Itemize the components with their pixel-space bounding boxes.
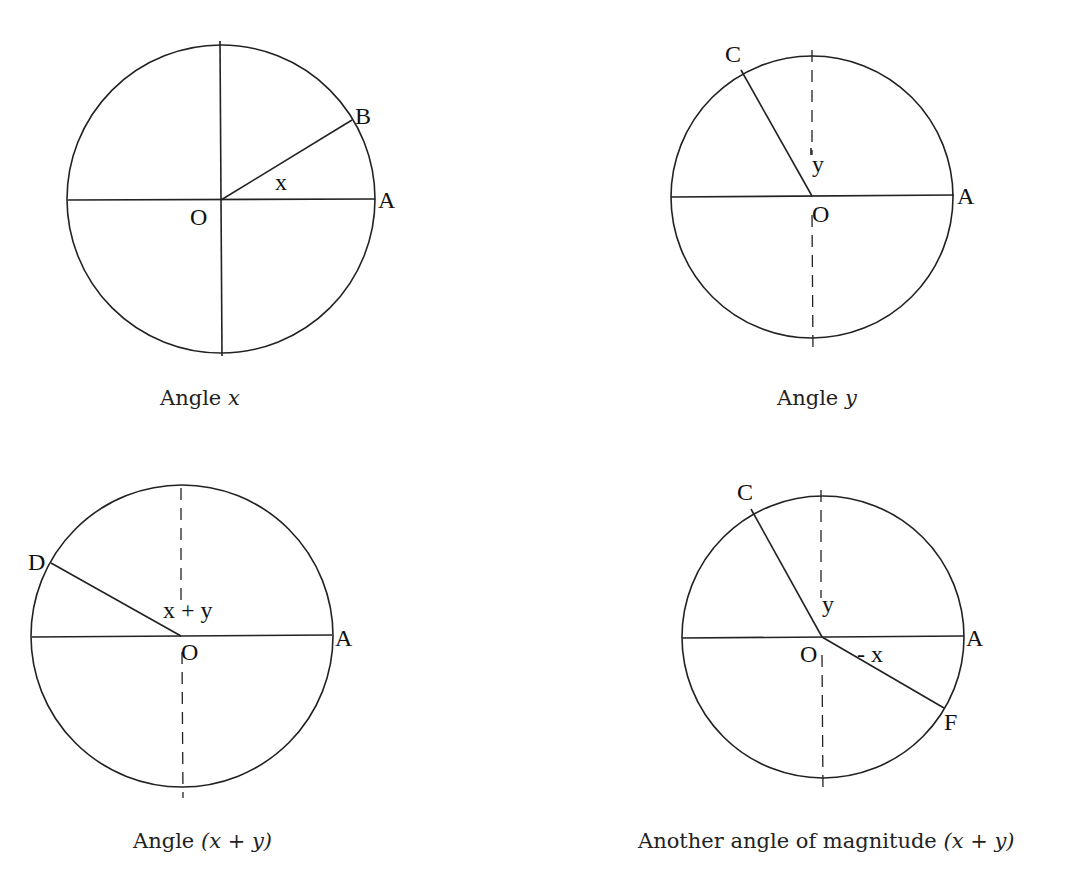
label-F: F [944,709,957,735]
diagram-angle-x-plus-y: O A D x + y Angle (x + y) [28,485,353,853]
label-C: C [737,479,753,505]
label-O: O [181,639,198,665]
caption-angle-y: Angle y [776,386,858,410]
label-A: A [335,625,353,651]
label-A: A [957,183,975,209]
label-O: O [190,204,207,230]
label-angle-y: y [822,591,834,617]
label-angle-y: y [812,151,824,177]
caption-another-angle: Another angle of magnitude (x + y) [637,829,1015,853]
vertical-dashed-axis-bottom [812,215,813,352]
label-O: O [800,641,817,667]
vertical-axis [220,41,222,356]
ray-OC [741,70,812,196]
label-angle-x: x [275,169,287,195]
vertical-dashed-axis-bottom [182,652,183,798]
label-angle-x-plus-y: x + y [163,597,213,623]
ray-OF [822,637,944,708]
ray-OC [751,509,822,637]
caption-angle-x: Angle x [159,386,240,410]
label-D: D [28,549,45,575]
horizontal-axis [32,635,332,637]
ray-OD [51,563,181,636]
caption-angle-x-plus-y: Angle (x + y) [132,829,272,853]
vertical-dashed-axis-bottom [822,655,823,792]
diagram-angle-x: O A B x Angle x [67,41,396,410]
label-A: A [966,625,984,651]
diagram-canvas: O A B x Angle x O A C y Angle y O A D x … [0,0,1088,870]
diagram-another-angle: O A C F y - x Another angle of magnitude… [637,479,1015,853]
label-B: B [355,103,371,129]
label-angle-neg-x: - x [857,641,883,667]
label-C: C [725,41,741,67]
label-O: O [812,201,829,227]
label-A: A [378,187,396,213]
diagram-angle-y: O A C y Angle y [671,41,975,410]
